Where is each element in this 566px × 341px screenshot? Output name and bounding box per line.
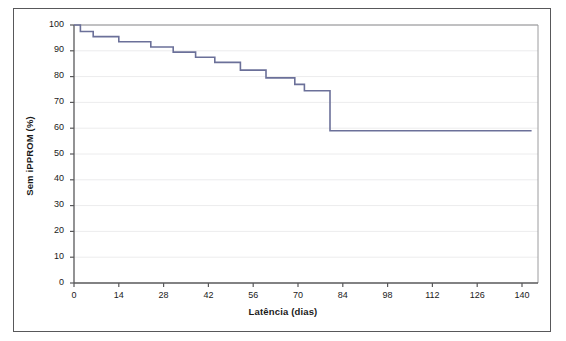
x-axis-title: Latência (dias) — [0, 306, 566, 317]
y-tick-label-30: 30 — [38, 199, 64, 209]
y-tick-label-10: 10 — [38, 251, 64, 261]
y-tick-label-90: 90 — [38, 44, 64, 54]
y-tick-label-100: 100 — [38, 19, 64, 29]
y-tick-label-80: 80 — [38, 70, 64, 80]
y-tick-label-70: 70 — [38, 96, 64, 106]
y-tick-label-0: 0 — [38, 277, 64, 287]
x-tick-label-42: 42 — [193, 290, 223, 300]
x-tick-label-112: 112 — [417, 290, 447, 300]
x-tick-label-56: 56 — [238, 290, 268, 300]
x-tick-label-14: 14 — [104, 290, 134, 300]
x-tick-label-84: 84 — [328, 290, 358, 300]
x-tick-label-140: 140 — [507, 290, 537, 300]
y-tick-label-60: 60 — [38, 122, 64, 132]
chart-plot-area: 0102030405060708090100 01428425670849811… — [0, 0, 566, 341]
x-tick-label-28: 28 — [149, 290, 179, 300]
y-tick-label-40: 40 — [38, 173, 64, 183]
x-tick-label-98: 98 — [373, 290, 403, 300]
figure-container: 0102030405060708090100 01428425670849811… — [0, 0, 566, 341]
y-axis-title-container: Sem iPPROM (%) — [19, 66, 37, 246]
y-axis-title: Sem iPPROM (%) — [24, 116, 35, 196]
y-tick-label-50: 50 — [38, 148, 64, 158]
x-tick-label-0: 0 — [59, 290, 89, 300]
y-tick-label-20: 20 — [38, 225, 64, 235]
x-tick-label-126: 126 — [462, 290, 492, 300]
x-tick-label-70: 70 — [283, 290, 313, 300]
